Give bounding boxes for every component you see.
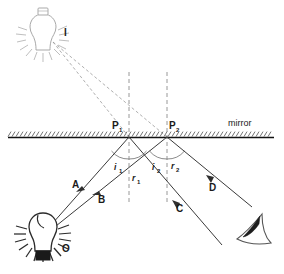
normals-group	[129, 72, 167, 205]
label-ray-b: B	[98, 194, 105, 205]
virtual-ray-i-to-p2	[53, 42, 167, 137]
label-ray-a: A	[72, 179, 79, 190]
label-image-i: I	[64, 27, 67, 38]
mirror-hatching	[8, 132, 271, 137]
object-bulb-glass	[29, 213, 57, 251]
mirror-group	[8, 132, 274, 138]
incident-ray-a	[44, 137, 129, 233]
label-p1: P	[112, 120, 119, 131]
angle-arc-i1	[112, 151, 130, 159]
angle-arc-i2	[150, 151, 168, 159]
label-p2: P	[169, 120, 176, 131]
label-angle-r1-subscript: 1	[137, 179, 141, 185]
label-p2-group: P 2	[169, 120, 180, 133]
label-i2-group: i 2	[152, 162, 161, 174]
image-bulb-base	[38, 8, 48, 15]
construction-rays-group	[53, 42, 167, 137]
incident-ray-b	[46, 137, 167, 234]
label-angle-i1: i	[114, 162, 117, 172]
label-angle-r2-subscript: 2	[176, 167, 180, 173]
incident-rays-group	[44, 137, 167, 234]
image-bulb-group	[16, 8, 69, 62]
ray-diagram-canvas: I O P 1 P 2 mirror A B C D i 1	[0, 0, 284, 274]
ray-diagram-figure: I O P 1 P 2 mirror A B C D i 1	[0, 0, 284, 274]
object-bulb-base	[36, 251, 50, 260]
label-angle-r2: r	[171, 161, 175, 171]
label-object-o: O	[62, 243, 70, 254]
label-i1-group: i 1	[114, 162, 123, 174]
label-mirror: mirror	[228, 118, 252, 128]
label-ray-c: C	[176, 203, 183, 214]
eye-symbol-group	[237, 214, 271, 244]
label-r1-group: r 1	[132, 173, 141, 185]
label-ray-d: D	[209, 182, 216, 193]
labels-group: I O P 1 P 2 mirror A B C D i 1	[62, 27, 252, 254]
label-angle-r1: r	[132, 173, 136, 183]
image-bulb-glass	[30, 14, 56, 50]
label-p2-subscript: 2	[176, 127, 180, 133]
angle-arc-r2	[167, 151, 185, 159]
label-r2-group: r 2	[171, 161, 180, 173]
label-p1-group: P 1	[112, 120, 123, 133]
